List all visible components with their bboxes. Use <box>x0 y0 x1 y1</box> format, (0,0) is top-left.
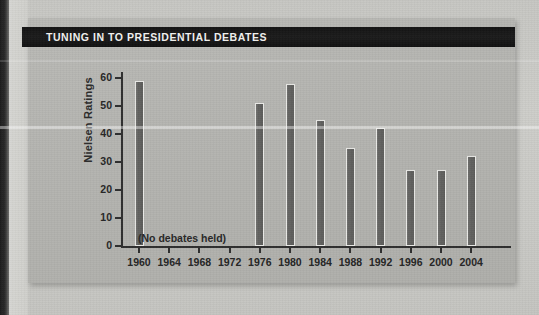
x-axis-tick-mark <box>440 248 442 253</box>
x-axis-tick-mark <box>410 248 412 253</box>
y-axis-tick-mark <box>115 189 121 191</box>
y-axis-tick-label: 40 <box>88 128 112 139</box>
page-margin <box>9 0 28 315</box>
y-axis-tick-label: 30 <box>88 156 112 167</box>
x-axis-tick-mark <box>319 248 321 253</box>
x-axis-tick-mark <box>168 248 170 253</box>
x-axis-tick-mark <box>198 248 200 253</box>
x-axis-tick-mark <box>259 248 261 253</box>
x-axis-tick-mark <box>380 248 382 253</box>
y-axis-tick-mark <box>115 133 121 135</box>
y-axis-tick-label: 60 <box>88 72 112 83</box>
y-axis-tick-mark <box>115 161 121 163</box>
x-axis-tick-mark <box>289 248 291 253</box>
page-spine-shadow <box>0 0 9 315</box>
bar <box>437 170 446 246</box>
y-axis-tick-mark <box>115 245 121 247</box>
y-axis-tick-label: 10 <box>88 212 112 223</box>
no-debates-annotation: (No debates held) <box>138 232 226 244</box>
y-axis-tick-mark <box>115 217 121 219</box>
bar <box>316 120 325 246</box>
x-axis-tick-mark <box>349 248 351 253</box>
figure-card: Nielsen Ratings 0102030405060 1960196419… <box>28 18 515 283</box>
y-axis-tick-labels: 0102030405060 <box>86 18 112 283</box>
y-axis-tick-mark <box>115 105 121 107</box>
y-axis-line <box>121 72 123 247</box>
x-axis-tick-label: 2004 <box>451 256 491 268</box>
bar <box>286 84 295 246</box>
bar <box>467 156 476 246</box>
y-axis-tick-label: 0 <box>88 240 112 251</box>
bar <box>376 128 385 246</box>
x-axis-tick-mark <box>138 248 140 253</box>
bar <box>346 148 355 246</box>
y-axis-tick-label: 20 <box>88 184 112 195</box>
y-axis-tick-mark <box>115 77 121 79</box>
bar <box>135 81 144 246</box>
x-axis-tick-mark <box>470 248 472 253</box>
bar <box>255 103 264 246</box>
chart-plot-area: Nielsen Ratings 0102030405060 1960196419… <box>28 18 515 283</box>
figure-title-bar: TUNING IN TO PRESIDENTIAL DEBATES <box>22 27 515 47</box>
y-axis-tick-label: 50 <box>88 100 112 111</box>
x-axis-line <box>121 246 511 248</box>
bar <box>406 170 415 246</box>
x-axis-tick-mark <box>229 248 231 253</box>
figure-title: TUNING IN TO PRESIDENTIAL DEBATES <box>46 31 267 43</box>
